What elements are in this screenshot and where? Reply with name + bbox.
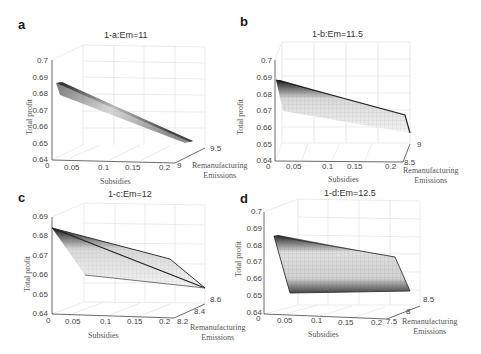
x-axis-label: Subsidies: [88, 331, 119, 340]
subplot-title-c: 1-c:Em=12: [108, 189, 152, 199]
depth-tick: 7.5: [386, 317, 397, 326]
panel-letter-a: a: [18, 17, 25, 32]
y-tick: 0.64: [18, 155, 48, 164]
depth-tick: 8.5: [423, 295, 434, 304]
x-axis-label: Subsidies: [308, 330, 339, 339]
depth-tick: 9.5: [210, 144, 221, 153]
subplot-title-d: 1-d:Em=12.5: [324, 188, 376, 198]
x-tick: 0.1: [311, 316, 322, 325]
panel-letter-b: b: [240, 14, 248, 29]
x-tick: 0.2: [385, 162, 396, 171]
subplot-a: a 1-a:Em=11 0.7 0.69 0.68 0.67 0.66 0.65…: [0, 0, 240, 177]
x-tick: 0.1: [322, 162, 333, 171]
y-tick: 0.64: [18, 309, 48, 318]
x-tick: 0.15: [347, 162, 363, 171]
panel-letter-c: c: [18, 190, 25, 205]
y-tick: 0.68: [18, 231, 48, 240]
x-tick: 0: [46, 316, 50, 325]
y-tick: 0.69: [232, 224, 262, 233]
x-tick: 0.05: [277, 316, 293, 325]
depth-tick: 8: [406, 307, 410, 316]
x-tick: 0.15: [127, 317, 143, 326]
x-tick: 0.15: [338, 318, 354, 327]
subplot-b: b 1-b:Em=11.5 0.7 0.69 0.68 0.67 0.66 0.…: [240, 0, 480, 177]
y-tick: 0.7: [242, 56, 272, 65]
y-axis-label: Total profit: [23, 256, 32, 292]
y-tick: 0.69: [18, 73, 48, 82]
panel-letter-d: d: [240, 191, 248, 206]
y-tick: 0.65: [232, 291, 262, 300]
x-tick: 0.1: [100, 317, 111, 326]
subplot-b-axes: [240, 0, 481, 177]
y-tick: 0.65: [18, 139, 48, 148]
y-tick: 0.67: [242, 106, 272, 115]
x-tick: 0.2: [159, 317, 170, 326]
depth-tick: 8.4: [194, 307, 205, 316]
subplot-title-b: 1-b:Em=11.5: [312, 29, 363, 39]
y-tick: 0.66: [242, 123, 272, 132]
x-tick: 0.2: [159, 163, 170, 172]
x-tick: 0.05: [286, 162, 302, 171]
y-axis-label: Total profit: [25, 99, 34, 135]
y-tick: 0.7: [18, 56, 48, 65]
y-tick: 0.68: [242, 90, 272, 99]
subplot-c: c 1-c:Em=12 0.69 0.68 0.67 0.66 0.65 0.6…: [0, 177, 240, 354]
x-tick: 0.15: [125, 163, 141, 172]
y-tick: 0.69: [242, 73, 272, 82]
depth-axis-label: Remanufacturing Emissions: [402, 317, 458, 337]
subplot-title-a: 1-a:Em=11: [104, 30, 148, 40]
x-tick: 0: [45, 161, 49, 170]
y-tick: 0.69: [18, 212, 48, 221]
x-tick: 0.1: [98, 163, 109, 172]
x-tick: 0.05: [64, 163, 80, 172]
depth-axis-label: Remanufacturing Emissions: [190, 323, 246, 343]
y-tick: 0.65: [242, 140, 272, 149]
depth-tick: 8.6: [210, 295, 221, 304]
subplot-d: d 1-d:Em=12.5 0.7 0.69 0.68 0.67 0.66 0.…: [240, 177, 480, 354]
y-axis-label: Total profit: [236, 99, 245, 135]
y-axis-label: Total profit: [234, 241, 243, 277]
y-tick: 0.68: [18, 89, 48, 98]
x-tick: 0.2: [371, 318, 382, 327]
depth-tick: 9: [177, 161, 181, 170]
x-tick: 0.05: [65, 317, 81, 326]
x-tick: 0: [256, 314, 260, 323]
y-tick: 0.7: [232, 207, 262, 216]
depth-tick: 8.2: [177, 317, 188, 326]
depth-tick: 9: [417, 140, 421, 149]
x-tick: 0: [266, 162, 270, 171]
